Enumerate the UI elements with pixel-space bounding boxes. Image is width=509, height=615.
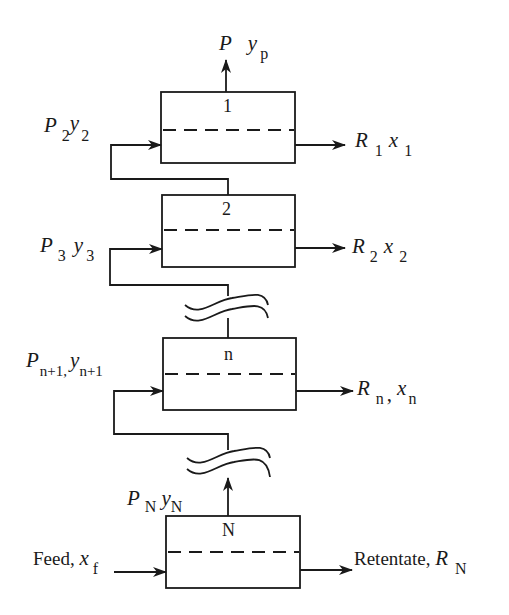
- stage-1-retentate-label: R1x1: [355, 130, 412, 151]
- stage-N-label: N: [222, 520, 235, 541]
- stage-2-retentate-label: R2x2: [352, 236, 407, 257]
- break-symbol-lower: [185, 306, 268, 321]
- cascade-diagram: [0, 0, 509, 615]
- stage-n-label: n: [224, 344, 233, 365]
- stage-n-inlet-label: Pn+1,yn+1: [26, 350, 103, 371]
- stage-N-permeate-label: PNyN: [127, 488, 182, 509]
- stage-1-inlet-label: P2y2: [44, 115, 89, 136]
- stage-1-label: 1: [223, 96, 232, 117]
- stage-n-inlet-line: [114, 391, 228, 450]
- stage-1-inlet-line: [111, 145, 228, 195]
- stage-n-retentate-label: Rn,xn: [357, 378, 416, 399]
- stage-2-label: 2: [222, 199, 231, 220]
- stage-2-inlet-label: P3y3: [40, 235, 94, 256]
- permeate-out-label: Pyp: [219, 33, 268, 54]
- break-symbol-upper: [185, 295, 268, 310]
- retentate-label: Retentate, RN: [354, 548, 467, 569]
- stage-2-inlet-line: [110, 249, 228, 296]
- feed-label: Feed, xf: [33, 548, 98, 569]
